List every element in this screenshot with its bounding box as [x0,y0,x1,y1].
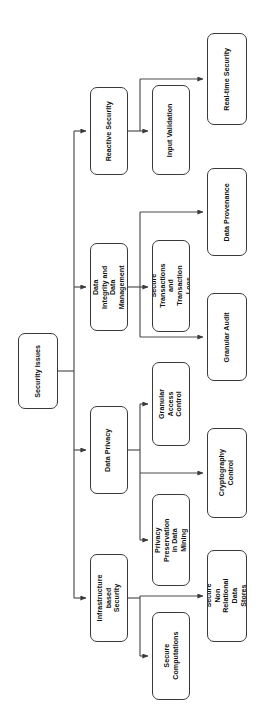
node-privacy-preservation-in-data-mining[interactable]: Privacy Preservation in Data Mining [152,494,190,586]
node-label-security-issues: Security Issues [34,345,43,398]
node-label-input-validation: Input Validation [167,103,176,157]
node-reactive-security[interactable]: Reactive Security [90,87,128,175]
node-label-data-privacy: Data Privacy [105,428,114,471]
node-infrastructure-based-security[interactable]: Infrastructure based Security [90,554,128,642]
node-secure-computations[interactable]: Secure Computations [152,612,190,700]
node-security-issues[interactable]: Security Issues [18,333,58,409]
node-granular-access-control[interactable]: Granular Access Control [152,362,190,446]
node-label-secure-non-relational-data-stores: Secure Non Relational Data Stores [207,577,247,615]
node-label-granular-audit: Granular Audit [223,312,232,362]
node-label-data-provenance: Data Provenance [223,183,232,241]
node-input-validation[interactable]: Input Validation [152,85,190,175]
node-label-real-time-security: Real-time Security [223,48,232,111]
node-label-secure-transactions-and-transaction-logs: Secure Transactions and Transaction Logs [152,264,190,308]
node-cryptography-control[interactable]: Cryptography Control [207,428,247,518]
node-label-data-integrity-and-data-management: Data Integrity and Data Management [92,265,127,309]
node-label-secure-computations: Secure Computations [162,632,179,680]
node-label-reactive-security: Reactive Security [105,101,114,161]
node-secure-non-relational-data-stores[interactable]: Secure Non Relational Data Stores [207,550,247,642]
node-label-infrastructure-based-security: Infrastructure based Security [96,575,122,622]
node-real-time-security[interactable]: Real-time Security [207,33,247,125]
node-data-integrity-and-data-management[interactable]: Data Integrity and Data Management [90,243,128,331]
node-granular-audit[interactable]: Granular Audit [207,293,247,381]
node-label-privacy-preservation-in-data-mining: Privacy Preservation in Data Mining [154,518,189,562]
security-issues-hierarchy-diagram: Security Issues Reactive Security Data I… [0,0,267,715]
node-secure-transactions-and-transaction-logs[interactable]: Secure Transactions and Transaction Logs [152,240,190,332]
node-data-provenance[interactable]: Data Provenance [207,168,247,256]
node-label-cryptography-control: Cryptography Control [218,449,235,496]
root-to-level1-connectors [58,131,86,598]
node-label-granular-access-control: Granular Access Control [158,386,184,422]
node-data-privacy[interactable]: Data Privacy [90,406,128,494]
